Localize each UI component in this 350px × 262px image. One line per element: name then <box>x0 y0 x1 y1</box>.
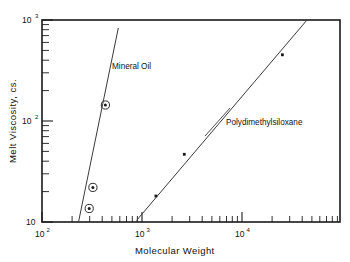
mineral-oil-marker <box>85 204 93 212</box>
x-tick-labels: 10 2 10 3 10 4 <box>35 227 251 239</box>
pdms-marker <box>183 153 186 156</box>
x-axis-title: Molecular Weight <box>135 245 215 256</box>
series-mineral-oil <box>79 28 119 222</box>
y-tick-label-10: 10 <box>26 217 36 227</box>
pdms-marker <box>281 53 284 56</box>
x-tick-label-1000: 10 <box>135 229 145 239</box>
y-tick-exponent-100: 2 <box>35 114 39 120</box>
y-axis-title: Melt Viscosity, cs. <box>7 79 18 163</box>
x-tick-exponent-1000: 3 <box>147 227 151 233</box>
x-tick-label-100: 10 <box>35 229 45 239</box>
x-tick-label-10000: 10 <box>235 229 245 239</box>
y-tick-label-1000: 10 <box>22 15 32 25</box>
x-tick-exponent-10000: 4 <box>247 227 251 233</box>
y-tick-label-100: 10 <box>22 116 32 126</box>
annotation-mineral-oil: Mineral Oil <box>112 62 151 71</box>
y-axis-ticks <box>42 20 53 222</box>
y-tick-labels: 10 3 10 2 10 <box>22 13 39 227</box>
mineral-oil-fit-line <box>79 28 119 222</box>
chart-svg: Mineral Oil Polydimethylsiloxane 10 3 10… <box>0 0 350 262</box>
y-tick-exponent-1000: 3 <box>35 13 39 19</box>
x-tick-exponent-100: 2 <box>47 227 51 233</box>
x-axis-ticks <box>42 212 337 222</box>
chart-figure: Mineral Oil Polydimethylsiloxane 10 3 10… <box>0 0 350 262</box>
pdms-marker <box>155 195 158 198</box>
mineral-oil-marker <box>89 183 97 191</box>
annotation-polydimethylsiloxane: Polydimethylsiloxane <box>226 118 303 127</box>
